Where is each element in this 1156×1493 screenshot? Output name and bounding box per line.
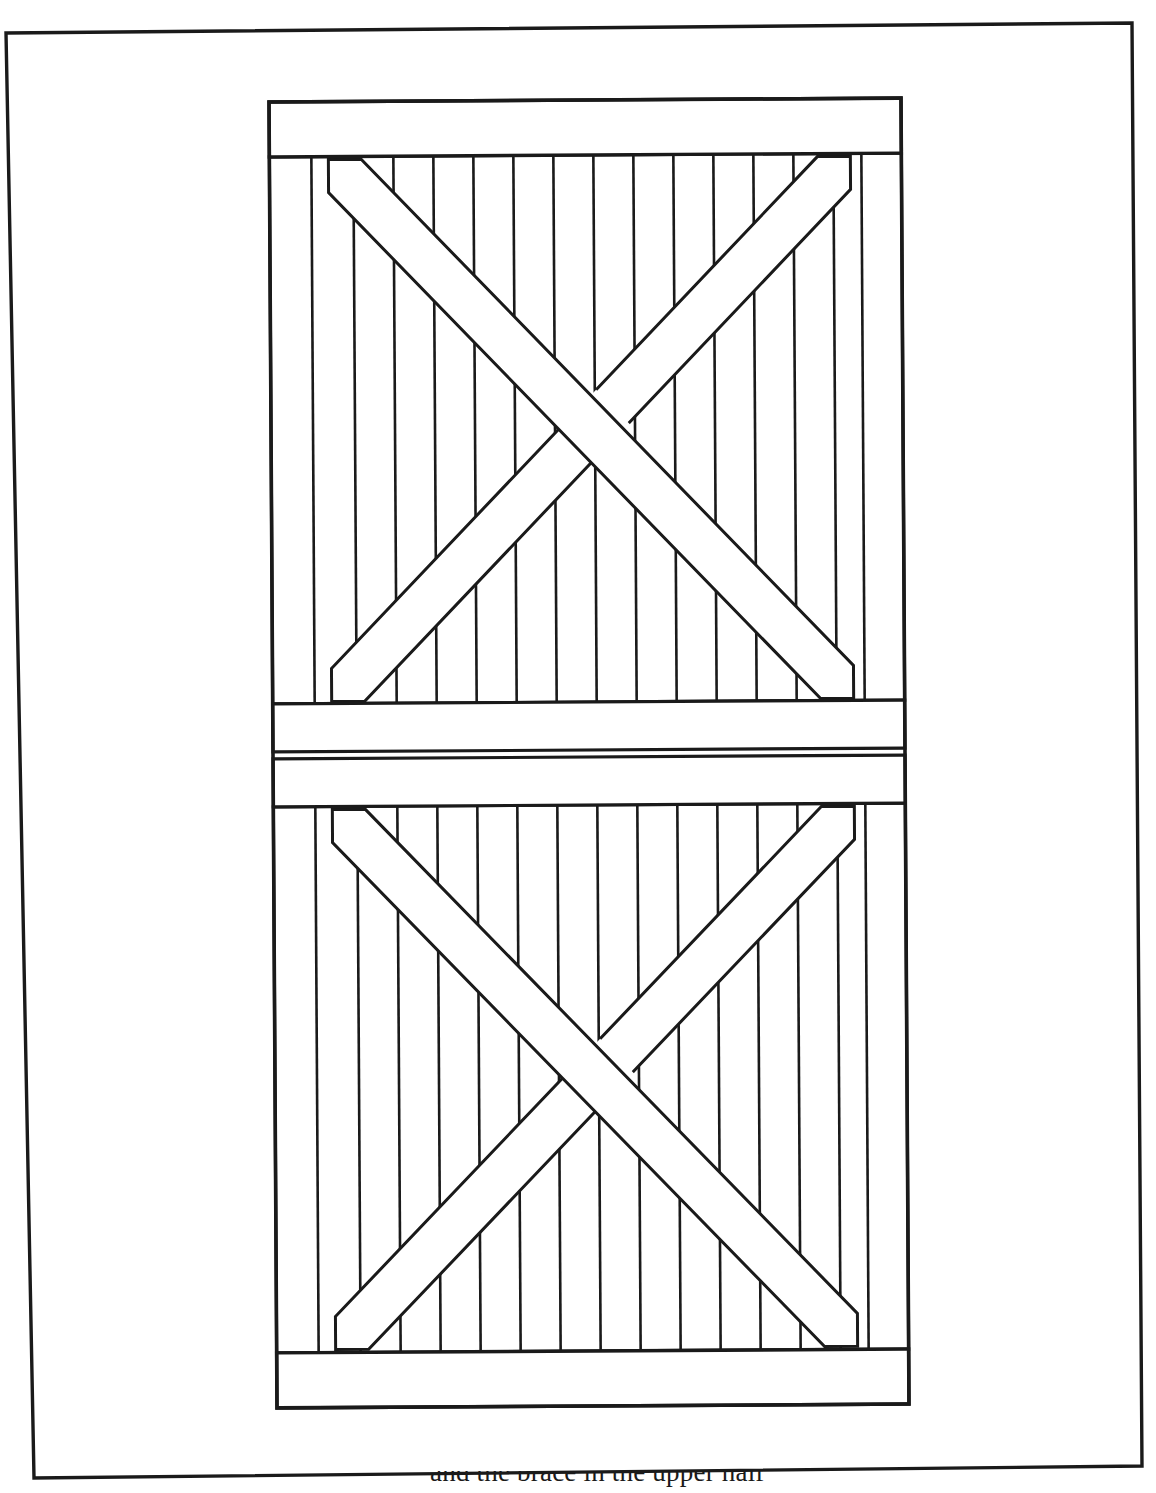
barn-door-drawing	[0, 0, 1156, 1493]
upper-panel	[269, 153, 904, 704]
lower-panel	[273, 803, 908, 1353]
bottom-rail	[277, 1349, 909, 1408]
top-rail	[269, 98, 901, 157]
middle-rail-upper	[273, 700, 905, 752]
page-caption: and the brace in the upper half	[430, 1471, 765, 1488]
door-assembly	[269, 98, 909, 1408]
middle-rail-lower	[273, 755, 905, 807]
caption-strip: and the brace in the upper half	[0, 1471, 1156, 1493]
page-root: and the brace in the upper half	[0, 0, 1156, 1493]
